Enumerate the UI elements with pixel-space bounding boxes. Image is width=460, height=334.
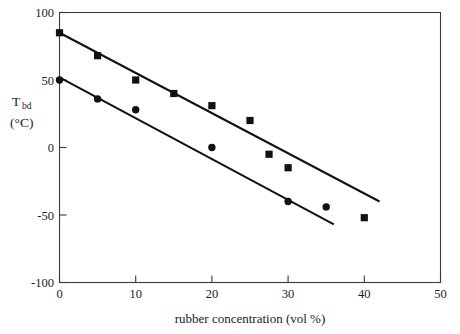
x-tick-label-0: 0 bbox=[56, 287, 62, 301]
y-tick-labels: 100 50 0 -50 -100 bbox=[31, 6, 54, 290]
plot-frame bbox=[60, 13, 441, 283]
x-tick-label-50: 50 bbox=[434, 287, 447, 301]
x-axis-title: rubber concentration (vol %) bbox=[175, 311, 326, 326]
data-point-square bbox=[170, 90, 177, 97]
x-tick-label-30: 30 bbox=[282, 287, 295, 301]
y-axis-title-units: (°C) bbox=[10, 115, 33, 130]
y-axis-title-main: T bbox=[12, 94, 21, 109]
data-point-circle bbox=[94, 95, 101, 102]
x-axis-ticks bbox=[60, 276, 441, 283]
y-tick-label-0: 0 bbox=[48, 141, 54, 155]
data-point-square bbox=[265, 151, 272, 158]
data-point-circle bbox=[56, 76, 63, 83]
data-point-square bbox=[361, 214, 368, 221]
y-axis-title-subscript: bd bbox=[22, 101, 32, 111]
y-tick-label-100: 100 bbox=[35, 6, 54, 20]
data-point-square bbox=[132, 76, 139, 83]
scatter-plot-svg: 100 50 0 -50 -100 0 10 20 30 40 50 rubbe… bbox=[0, 0, 460, 334]
data-point-circle bbox=[132, 106, 139, 113]
data-point-square bbox=[285, 164, 292, 171]
data-point-square bbox=[246, 117, 253, 124]
data-point-circle bbox=[208, 144, 215, 151]
data-point-square bbox=[56, 29, 63, 36]
x-tick-labels: 0 10 20 30 40 50 bbox=[56, 287, 446, 301]
x-tick-label-10: 10 bbox=[129, 287, 142, 301]
y-tick-label-n100: -100 bbox=[31, 276, 54, 290]
y-tick-label-50: 50 bbox=[42, 74, 55, 88]
data-point-square bbox=[208, 102, 215, 109]
data-point-circle bbox=[284, 198, 291, 205]
data-markers bbox=[56, 29, 368, 221]
chart-container: 100 50 0 -50 -100 0 10 20 30 40 50 rubbe… bbox=[0, 0, 460, 334]
y-axis-ticks bbox=[60, 13, 67, 283]
trend-lines bbox=[60, 33, 380, 225]
y-axis-title: T bd (°C) bbox=[10, 94, 33, 130]
y-tick-label-n50: -50 bbox=[37, 209, 54, 223]
trendline-upper-series bbox=[60, 33, 380, 202]
x-tick-label-20: 20 bbox=[206, 287, 219, 301]
data-point-square bbox=[94, 52, 101, 59]
x-tick-label-40: 40 bbox=[358, 287, 371, 301]
data-point-circle bbox=[323, 203, 330, 210]
